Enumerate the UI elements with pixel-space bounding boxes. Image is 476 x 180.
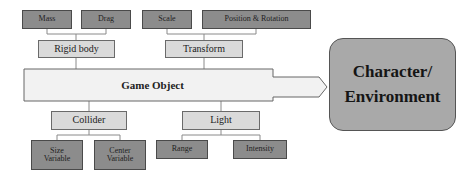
target-line-1: Character/ [353,60,432,85]
target-line-2: Environment [344,85,440,110]
center-variable-node: Center Variable [94,140,146,170]
position-rotation-node: Position & Rotation [202,10,311,29]
range-node: Range [156,140,208,159]
drag-node: Drag [81,10,131,29]
size-variable-node: Size Variable [31,140,83,170]
game-object-label: Game Object [115,79,190,91]
rigid-body-node: Rigid body [38,40,115,58]
light-node: Light [182,111,260,130]
character-environment-node: Character/ Environment [329,38,456,131]
mass-node: Mass [22,10,72,29]
scale-node: Scale [142,10,192,29]
collider-node: Collider [51,111,127,130]
transform-node: Transform [165,40,243,58]
intensity-node: Intensity [233,140,287,159]
